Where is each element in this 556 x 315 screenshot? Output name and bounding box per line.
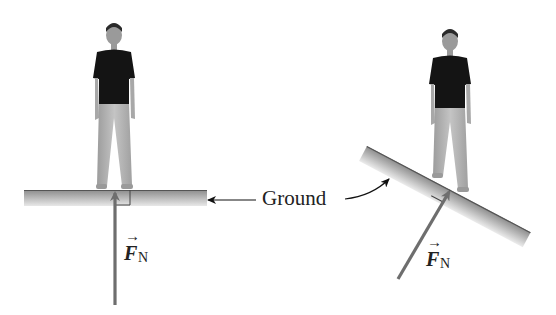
force-label-right: → F N	[426, 238, 466, 278]
force-label-left: → F N	[124, 232, 164, 272]
ground-label: Ground	[262, 186, 326, 211]
person-left	[93, 23, 135, 189]
left-panel	[24, 23, 207, 305]
force-subscript: N	[440, 256, 450, 272]
force-symbol: F	[426, 248, 439, 271]
force-subscript: N	[138, 250, 148, 266]
ground-pointer-right	[345, 179, 389, 199]
normal-force-diagram	[0, 0, 556, 315]
force-symbol: F	[124, 242, 137, 265]
person-right	[429, 29, 471, 192]
